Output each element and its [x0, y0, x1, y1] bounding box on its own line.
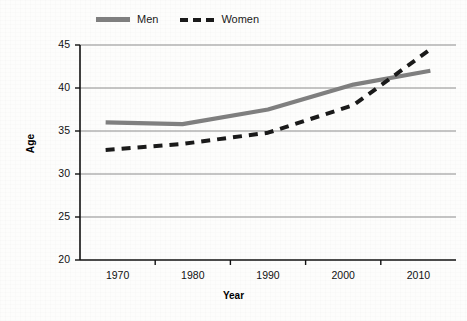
x-tick-label: 1980 [168, 269, 218, 281]
x-tick-label: 2000 [318, 269, 368, 281]
y-tick-label: 25 [36, 210, 70, 222]
chart-page: Men Women Age Year 202530354045 19701980… [0, 0, 467, 321]
x-tick-label: 1990 [243, 269, 293, 281]
y-axis-title: Age [25, 134, 36, 154]
y-tick-label: 30 [36, 167, 70, 179]
x-axis-title: Year [0, 290, 467, 301]
y-tick-label: 35 [36, 124, 70, 136]
y-tick-label: 20 [36, 253, 70, 265]
series-line-women [106, 49, 431, 150]
y-tick-label: 40 [36, 81, 70, 93]
series-line-men [106, 71, 431, 124]
x-tick-label: 1970 [93, 269, 143, 281]
y-tick-label: 45 [36, 38, 70, 50]
x-tick-label: 2010 [393, 269, 443, 281]
